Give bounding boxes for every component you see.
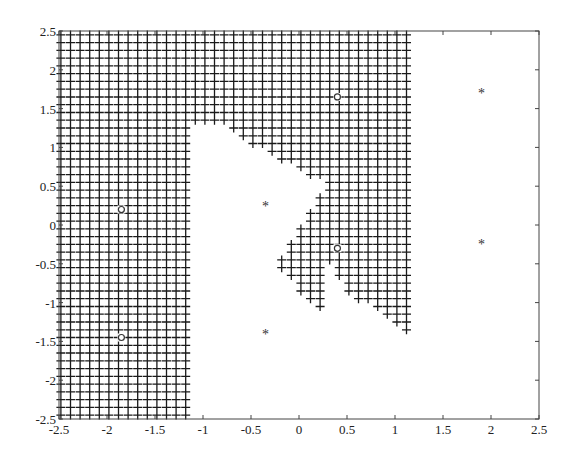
y-axis-ticks: 2.521.510.50-0.5-1-1.5-2-2.5: [35, 24, 539, 427]
chart-canvas: **** -2.5-2-1.5-1-0.500.511.522.5 2.521.…: [0, 0, 577, 466]
x-tick-label: -1.5: [145, 422, 166, 437]
region-plus-markers: [56, 30, 411, 419]
y-tick-label: 0: [50, 218, 57, 233]
plus-marker-field: [56, 30, 411, 419]
y-tick-label: 0.5: [40, 179, 56, 194]
x-tick-label: 1: [392, 422, 399, 437]
y-tick-label: -1: [45, 296, 56, 311]
asterisk-marker-icon: *: [478, 86, 485, 101]
x-tick-label: -1: [198, 422, 209, 437]
y-tick-label: -1.5: [35, 334, 56, 349]
x-tick-label: 1.5: [435, 422, 451, 437]
x-tick-label: 2: [488, 422, 495, 437]
y-tick-label: 1.5: [40, 102, 56, 117]
asterisk-marker-icon: *: [478, 237, 485, 252]
y-tick-label: 1: [50, 140, 57, 155]
y-tick-label: -2.5: [35, 412, 56, 427]
x-tick-label: 2.5: [531, 422, 547, 437]
y-tick-label: -2: [45, 373, 56, 388]
x-tick-label: 0: [296, 422, 303, 437]
y-tick-label: 2.5: [40, 24, 56, 39]
asterisk-marker-icon: *: [262, 199, 269, 214]
x-axis-ticks: -2.5-2-1.5-1-0.500.511.522.5: [49, 31, 547, 437]
x-tick-label: -2: [102, 422, 113, 437]
x-tick-label: 0.5: [339, 422, 355, 437]
y-tick-label: -0.5: [35, 257, 56, 272]
x-tick-label: -0.5: [241, 422, 262, 437]
y-tick-label: 2: [50, 63, 57, 78]
asterisk-marker-icon: *: [262, 327, 269, 342]
